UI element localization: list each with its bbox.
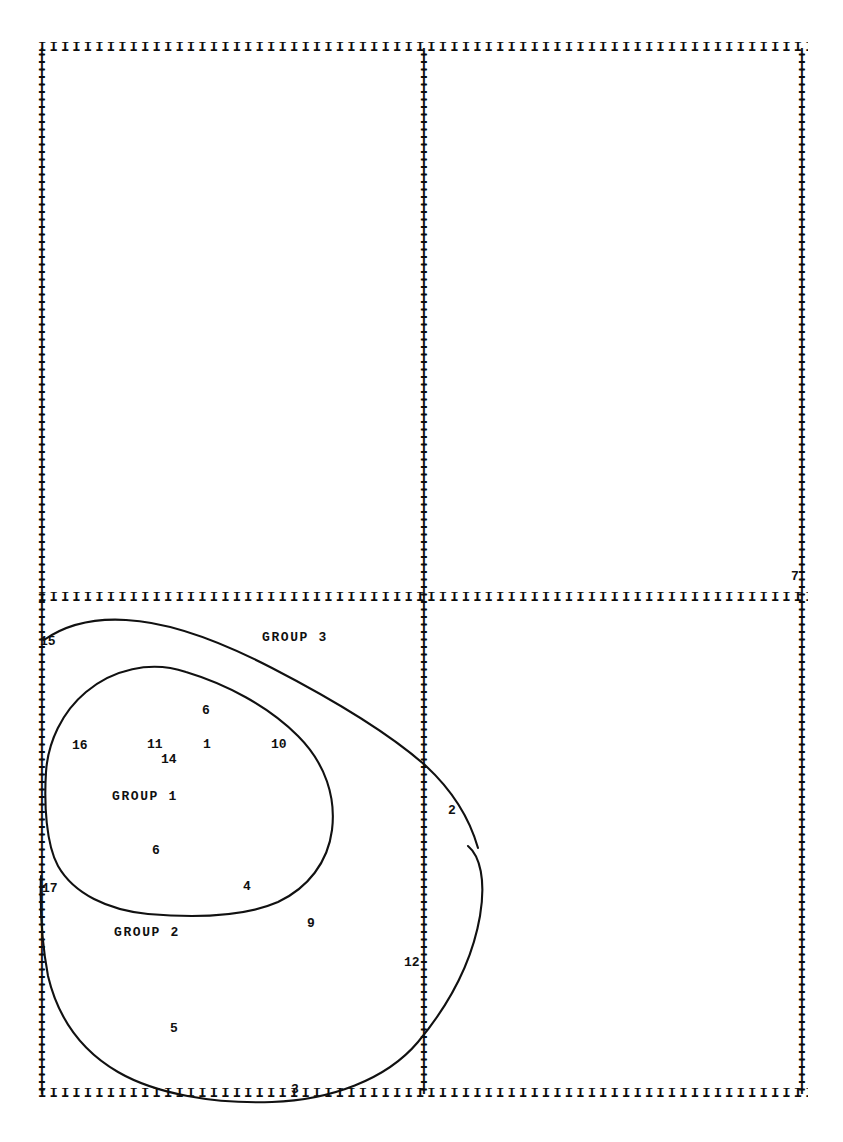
point-label-7-15: 7 (791, 569, 799, 584)
point-label-14-3: 14 (161, 752, 177, 767)
group-2-hull-outline (41, 846, 483, 1102)
point-label-4-8: 4 (243, 879, 251, 894)
group-label-1: GROUP 1 (112, 789, 178, 804)
point-label-6-7: 6 (152, 843, 160, 858)
point-label-16-1: 16 (72, 738, 88, 753)
point-label-9-10: 9 (307, 916, 315, 931)
point-label-11-2: 11 (147, 737, 163, 752)
point-label-15-0: 15 (40, 634, 56, 649)
figure-canvas: . .. IIIIIIIIIIIIIIIIIIIIIIIIIIIIIIIIIII… (0, 0, 843, 1142)
group-label-2: GROUP 2 (114, 925, 180, 940)
point-label-3-14: 3 (291, 1082, 299, 1097)
point-label-10-5: 10 (271, 737, 287, 752)
point-label-2-11: 2 (448, 803, 456, 818)
point-label-12-12: 12 (404, 955, 420, 970)
axis-center-divider-ticks: IIIIIIIIIIIIIIIIIIIIIIIIIIIIIIIIIIIIIIII… (420, 48, 432, 1094)
group-1-hull-outline (45, 667, 333, 916)
point-label-6-6: 6 (202, 703, 210, 718)
point-label-1-4: 1 (203, 737, 211, 752)
axis-left-ticks: IIIIIIIIIIIIIIIIIIIIIIIIIIIIIIIIIIIIIIII… (38, 48, 50, 1094)
point-label-5-13: 5 (170, 1021, 178, 1036)
group-label-3: GROUP 3 (262, 630, 328, 645)
point-label-17-9: 17 (42, 881, 58, 896)
axis-right-ticks: IIIIIIIIIIIIIIIIIIIIIIIIIIIIIIIIIIIIIIII… (798, 48, 810, 1094)
group-3-hull-outline (44, 620, 478, 848)
cut-off-text-remnant: . .. (648, 0, 682, 3)
